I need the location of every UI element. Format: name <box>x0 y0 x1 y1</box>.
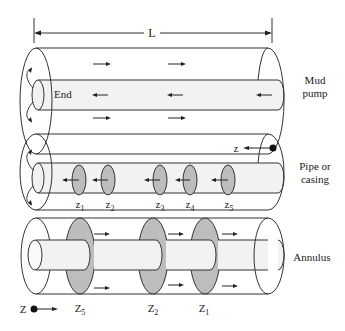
length-label: L <box>148 26 155 40</box>
svg-text:z: z <box>234 142 239 154</box>
svg-text:Z: Z <box>20 303 27 315</box>
slice-labels: z1 z2 z3 z4 z5 <box>76 198 234 213</box>
annulus-label: Annulus <box>293 251 330 263</box>
slice-labels: Z5 Z2 Z1 <box>75 302 210 317</box>
drilling-flow-diagram: L End Mu <box>0 0 345 331</box>
mud-pump-label-line1: Mud <box>305 74 326 86</box>
svg-text:Z1: Z1 <box>199 302 210 317</box>
end-label: End <box>54 88 72 100</box>
arrow-left-icon <box>34 31 41 36</box>
svg-text:Z5: Z5 <box>75 302 86 317</box>
panel-mud-pump: End Mud pump <box>20 48 328 154</box>
arrow-right-icon <box>265 31 272 36</box>
svg-text:z3: z3 <box>156 198 165 213</box>
svg-text:z5: z5 <box>225 198 234 213</box>
panel-annulus: Z Z5 Z2 Z1 Annulus <box>20 218 331 317</box>
z-axis-indicator: z <box>234 142 277 154</box>
pipe-label-line1: Pipe or <box>299 160 331 172</box>
svg-text:z1: z1 <box>76 198 85 213</box>
pipe-label-line2: casing <box>301 173 330 185</box>
svg-text:z4: z4 <box>186 198 195 213</box>
origin-dot-icon <box>31 306 38 313</box>
panel-pipe-or-casing: z z1 z2 z3 z4 z5 Pipe or casing <box>20 134 331 213</box>
origin-dot-icon <box>270 145 277 152</box>
mud-pump-label-line2: pump <box>302 87 328 99</box>
svg-text:z2: z2 <box>106 198 115 213</box>
svg-text:Z2: Z2 <box>148 302 159 317</box>
length-dimension: L <box>34 18 272 43</box>
z-axis-indicator: Z <box>20 303 58 315</box>
